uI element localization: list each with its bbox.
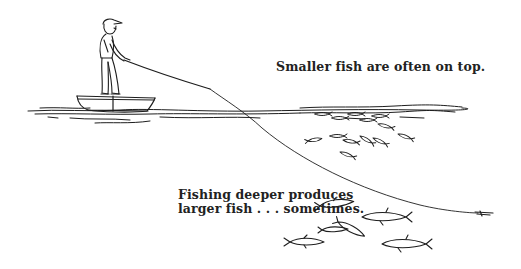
caption-deep-fish: Fishing deeper produces larger fish . . … <box>178 188 364 216</box>
caption-deep-fish-line1: Fishing deeper produces <box>178 188 364 202</box>
caption-surface-fish: Smaller fish are often on top. <box>276 60 485 74</box>
lure-icon <box>475 211 493 216</box>
angler <box>100 19 130 94</box>
line-drawing <box>0 0 521 269</box>
fishing-depth-illustration: Smaller fish are often on top. Fishing d… <box>0 0 521 269</box>
water-surface <box>28 105 468 123</box>
fishing-rod <box>124 60 210 89</box>
caption-deep-fish-line2: larger fish . . . sometimes. <box>178 202 364 216</box>
